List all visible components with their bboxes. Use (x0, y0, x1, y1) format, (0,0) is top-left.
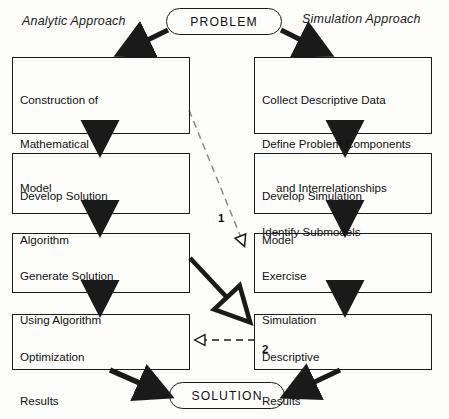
node-optimization-results-line-1: Results (20, 394, 189, 409)
flowchart-diagram: Analytic Approach Simulation Approach PR… (0, 0, 449, 419)
node-optimization-results[interactable]: Optimization Results (12, 314, 190, 370)
node-develop-simulation[interactable]: Develop Simulation Model (254, 153, 432, 214)
link-3-solid-generate-solution-to-descriptive-results (190, 258, 247, 319)
node-problem-label: PROBLEM (190, 15, 257, 29)
node-exercise-simulation[interactable]: Exercise Simulation (254, 233, 432, 293)
node-collect-data[interactable]: Collect Descriptive Data Define Problem … (254, 57, 432, 134)
link-1-dashed-construction-to-exercise-simulation (189, 110, 244, 245)
node-optimization-results-line-0: Optimization (20, 350, 189, 365)
node-construction-line-0: Construction of (20, 93, 189, 108)
node-collect-data-line-0: Collect Descriptive Data (262, 93, 431, 108)
node-collect-data-line-1: Define Problem Components (262, 137, 431, 152)
link-1-label: 1 (218, 212, 224, 224)
column-heading-simulation: Simulation Approach (302, 12, 421, 26)
node-solution[interactable]: SOLUTION (169, 382, 285, 409)
column-heading-analytic: Analytic Approach (22, 14, 126, 28)
node-descriptive-results[interactable]: Descriptive Results (254, 314, 432, 370)
node-solution-label: SOLUTION (191, 389, 262, 403)
arrow-problem-to-collect-data (281, 30, 327, 53)
node-generate-solution-line-0: Generate Solution (20, 269, 189, 284)
node-problem[interactable]: PROBLEM (166, 8, 282, 35)
link-2-label: 2 (262, 343, 268, 355)
node-construction[interactable]: Construction of Mathematical Model (12, 57, 190, 134)
node-descriptive-results-line-0: Descriptive (262, 350, 431, 365)
node-exercise-simulation-line-0: Exercise (262, 269, 431, 284)
node-develop-algorithm-line-0: Develop Solution (20, 189, 189, 204)
node-generate-solution[interactable]: Generate Solution Using Algorithm (12, 233, 190, 293)
node-develop-algorithm[interactable]: Develop Solution Algorithm (12, 153, 190, 214)
node-construction-line-1: Mathematical (20, 137, 189, 152)
node-descriptive-results-line-1: Results (262, 394, 431, 409)
node-develop-simulation-line-0: Develop Simulation (262, 189, 431, 204)
arrow-problem-to-construction (121, 30, 168, 53)
